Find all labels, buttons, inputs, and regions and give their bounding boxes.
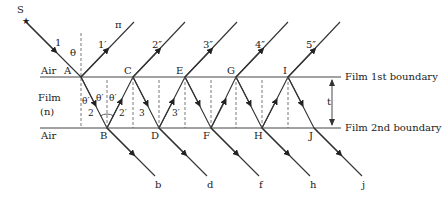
theta-prime-left: θ′ <box>82 97 89 106</box>
point-h: H <box>254 131 263 141</box>
ray-3prime-label: 3′ <box>172 109 180 118</box>
film-label: Film <box>38 93 61 103</box>
point-g: G <box>227 66 235 76</box>
ray-5dp-label: 5″ <box>306 40 316 50</box>
transmitted-b: b <box>155 180 161 190</box>
ray-2-label: 2 <box>88 109 94 118</box>
transmitted-d: d <box>207 180 213 190</box>
film-first-boundary-label: Film 1st boundary <box>345 72 438 82</box>
source-label: S <box>17 5 24 15</box>
point-c: C <box>124 66 132 76</box>
ray-4dp-label: 4″ <box>255 40 265 50</box>
theta-prime-right: θ′ <box>109 94 116 103</box>
transmitted-h: h <box>310 180 316 190</box>
film-index-label: (n) <box>40 107 54 117</box>
film-second-boundary-label: Film 2nd boundary <box>345 123 441 133</box>
point-a: A <box>64 66 71 76</box>
point-b: B <box>100 131 107 141</box>
theta-label: θ <box>70 48 76 58</box>
point-j: J <box>309 131 313 141</box>
ray-2prime-label: 2′ <box>119 109 127 118</box>
ray-3-label: 3 <box>139 109 145 118</box>
ray-3dp-label: 3″ <box>203 40 213 50</box>
ray-2dp-label: 2″ <box>152 40 162 50</box>
source-star-icon: ★ <box>22 16 30 26</box>
point-e: E <box>176 66 183 76</box>
transmitted-j: j <box>362 180 365 190</box>
point-d: D <box>151 131 159 141</box>
air-bottom-label: Air <box>41 131 56 141</box>
thin-film-diagram: ★ <box>0 0 443 202</box>
ray-1prime-label: 1′ <box>98 40 107 50</box>
theta-prime-mid: θ′ <box>96 94 103 103</box>
thickness-label: t <box>327 97 331 107</box>
transmitted-f: f <box>259 180 263 190</box>
ray-1-label: 1 <box>55 38 61 48</box>
point-f: F <box>203 131 210 141</box>
point-i: I <box>283 66 287 76</box>
pi-label: π <box>115 20 122 30</box>
air-top-label: Air <box>41 66 56 76</box>
